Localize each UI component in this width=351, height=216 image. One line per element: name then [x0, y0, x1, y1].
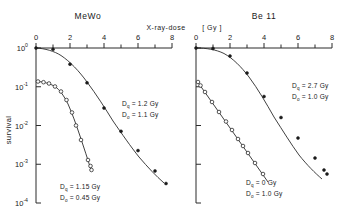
panel-mewo: MeWo 0 2 4 6 8 100 10-1 10-2 — [4, 11, 174, 208]
x-axis-unit: [ Gy ] — [202, 24, 222, 32]
svg-text:10-3: 10-3 — [15, 158, 28, 169]
x-tick-label: 6 — [296, 33, 300, 42]
svg-text:Dq = 0 Gy: Dq = 0 Gy — [246, 179, 277, 188]
y-tick-label: 100 — [17, 42, 28, 53]
x-tick-label: 4 — [102, 33, 106, 42]
annotation-be11-sensitive: Dq = 0 Gy Do = 1.0 Gy — [246, 179, 283, 199]
points-be11-resistant — [195, 47, 329, 176]
annotation-mewo-resistant: Dq = 1.2 Gy Do = 1.1 Gy — [122, 100, 159, 120]
survival-curve-figure: MeWo 0 2 4 6 8 100 10-1 10-2 — [0, 0, 351, 216]
svg-text:Do = 1.0 Gy: Do = 1.0 Gy — [246, 190, 283, 199]
x-tick-label: 4 — [262, 33, 266, 42]
y-tick-label: 10-3 — [15, 158, 28, 169]
svg-text:100: 100 — [17, 42, 28, 53]
svg-text:10-4: 10-4 — [15, 197, 28, 208]
x-axis-label: X-ray-dose — [146, 24, 185, 32]
x-tick-label: 2 — [228, 33, 232, 42]
y-axis-title: survival — [4, 116, 13, 145]
svg-text:Do = 1.0 Gy: Do = 1.0 Gy — [292, 93, 329, 102]
curve-mewo-sensitive — [38, 82, 91, 171]
annotation-mewo-sensitive: Dq = 1.15 Gy Do = 0.45 Gy — [60, 183, 101, 203]
svg-text:Do = 1.1 Gy: Do = 1.1 Gy — [122, 111, 159, 120]
x-tick-label: 0 — [34, 33, 38, 42]
figure-container: MeWo 0 2 4 6 8 100 10-1 10-2 — [0, 0, 351, 216]
points-mewo-sensitive — [36, 80, 93, 172]
x-tick-label: 0 — [194, 33, 198, 42]
x-tick-label: 6 — [136, 33, 140, 42]
svg-text:Do = 0.45 Gy: Do = 0.45 Gy — [60, 194, 101, 203]
y-tick-label: 10-2 — [15, 120, 28, 131]
annotation-be11-resistant: Dq = 2.7 Gy Do = 1.0 Gy — [292, 82, 329, 102]
curve-be11-resistant — [196, 48, 322, 179]
panel-be11: Be 11 0 2 4 6 8 — [194, 11, 334, 203]
svg-text:Dq = 2.7 Gy: Dq = 2.7 Gy — [292, 82, 329, 91]
svg-text:10-1: 10-1 — [15, 81, 28, 92]
x-tick-label: 8 — [170, 33, 174, 42]
svg-text:Dq = 1.2 Gy: Dq = 1.2 Gy — [122, 100, 159, 109]
panel-title-be11: Be 11 — [252, 11, 277, 21]
y-tick-label: 10-4 — [15, 197, 28, 208]
x-tick-label: 2 — [68, 33, 72, 42]
svg-text:10-2: 10-2 — [15, 120, 28, 131]
x-tick-label: 8 — [330, 33, 334, 42]
y-tick-label: 10-1 — [15, 81, 28, 92]
svg-text:Dq = 1.15 Gy: Dq = 1.15 Gy — [60, 183, 101, 192]
panel-title-mewo: MeWo — [75, 11, 102, 21]
